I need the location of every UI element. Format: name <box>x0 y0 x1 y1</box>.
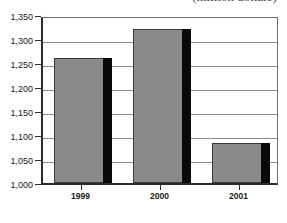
y-tick-label: 1,050 <box>10 155 33 167</box>
y-tick-label: 1,350 <box>10 11 33 23</box>
x-tick-mark <box>239 185 240 190</box>
y-tick-label: 1,000 <box>10 179 33 191</box>
x-tick-label: 2000 <box>120 191 199 201</box>
x-axis: 199920002001 <box>41 185 278 215</box>
bar-shadow <box>261 143 270 183</box>
y-tick-label: 1,200 <box>10 83 33 95</box>
bars-layer <box>43 18 277 183</box>
y-tick-label: 1,100 <box>10 131 33 143</box>
y-axis: 1,0001,0501,1001,1501,2001,2501,3001,350 <box>0 17 41 185</box>
bar-chart-figure: (million dollars) 1,0001,0501,1001,1501,… <box>0 0 287 223</box>
x-tick-mark <box>160 185 161 190</box>
y-tick: 1,250 <box>0 59 41 71</box>
bar-group <box>212 18 270 183</box>
y-tick: 1,000 <box>0 179 41 191</box>
x-tick-mark <box>81 185 82 190</box>
bar-shadow <box>103 58 112 183</box>
y-tick: 1,350 <box>0 11 41 23</box>
bar-group <box>133 18 191 183</box>
bar-group <box>54 18 112 183</box>
x-tick-label: 2001 <box>199 191 278 201</box>
y-tick: 1,150 <box>0 107 41 119</box>
y-tick: 1,200 <box>0 83 41 95</box>
y-tick-label: 1,150 <box>10 107 33 119</box>
x-tick-label: 1999 <box>41 191 120 201</box>
plot-area <box>41 17 278 185</box>
y-tick-label: 1,250 <box>10 59 33 71</box>
y-tick: 1,050 <box>0 155 41 167</box>
chart-title: (million dollars) <box>0 0 287 5</box>
bar-shadow <box>182 29 191 183</box>
y-tick-label: 1,300 <box>10 35 33 47</box>
y-tick: 1,300 <box>0 35 41 47</box>
y-tick: 1,100 <box>0 131 41 143</box>
